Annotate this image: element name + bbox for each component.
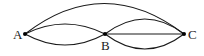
edge-b-c-lower — [105, 34, 184, 49]
edge-a-c — [25, 4, 184, 35]
node-c-label: C — [188, 28, 197, 41]
node-b-label: B — [101, 39, 110, 52]
node-a — [23, 32, 27, 36]
node-a-label: A — [13, 28, 22, 41]
edge-a-b-lower — [25, 34, 105, 45]
node-b — [103, 32, 107, 36]
edge-b-c-upper — [105, 19, 184, 34]
node-c — [182, 32, 186, 36]
